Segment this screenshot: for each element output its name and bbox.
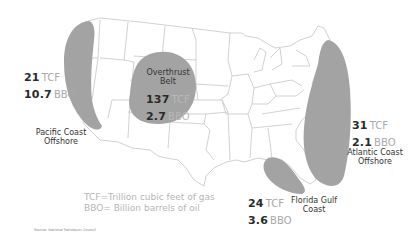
overthrust-gas-value: 137 bbox=[146, 93, 170, 106]
pacific-name-line1: Pacific Coast bbox=[30, 128, 92, 137]
map-legend: TCF=Trillion cubic feet of gas BBO= Bill… bbox=[84, 192, 215, 214]
legend-tcf: TCF=Trillion cubic feet of gas bbox=[84, 192, 215, 203]
us-resource-map: 21TCF 10.7BBO Pacific Coast Offshore Ove… bbox=[0, 0, 418, 236]
atlantic-gas-value: 31 bbox=[352, 119, 368, 132]
gulf-region-shape bbox=[264, 157, 305, 194]
pacific-gas-unit: TCF bbox=[42, 72, 60, 83]
gulf-name-line1: Florida Gulf bbox=[286, 196, 342, 205]
gulf-gas-unit: TCF bbox=[266, 198, 284, 209]
atlantic-name: Atlantic Coast Offshore bbox=[342, 148, 408, 166]
atlantic-oil-value: 2.1 bbox=[352, 136, 372, 149]
pacific-oil-value: 10.7 bbox=[24, 88, 52, 101]
gulf-oil-unit: BBO bbox=[270, 215, 291, 226]
atlantic-values: 31TCF 2.1BBO bbox=[352, 116, 396, 150]
overthrust-name: Overthrust Belt bbox=[138, 68, 198, 86]
overthrust-oil-value: 2.7 bbox=[146, 110, 166, 123]
gulf-name: Florida Gulf Coast bbox=[286, 196, 342, 214]
source-credit: Source: National Petroleum Council bbox=[34, 228, 96, 232]
pacific-gas-value: 21 bbox=[24, 71, 40, 84]
us-border bbox=[80, 18, 330, 186]
overthrust-values: 137TCF 2.7BBO bbox=[146, 90, 190, 124]
pacific-name-line2: Offshore bbox=[30, 137, 92, 146]
overthrust-name-line1: Overthrust bbox=[138, 68, 198, 77]
overthrust-gas-unit: TCF bbox=[172, 94, 190, 105]
gulf-gas-value: 24 bbox=[248, 197, 264, 210]
gulf-values: 24TCF 3.6BBO bbox=[248, 194, 292, 228]
atlantic-name-line2: Offshore bbox=[342, 157, 408, 166]
pacific-name: Pacific Coast Offshore bbox=[30, 128, 92, 146]
gulf-name-line2: Coast bbox=[286, 205, 342, 214]
overthrust-name-line2: Belt bbox=[138, 77, 198, 86]
overthrust-oil-unit: BBO bbox=[168, 111, 189, 122]
pacific-oil-unit: BBO bbox=[54, 89, 75, 100]
atlantic-name-line1: Atlantic Coast bbox=[342, 148, 408, 157]
atlantic-gas-unit: TCF bbox=[370, 120, 388, 131]
gulf-oil-value: 3.6 bbox=[248, 214, 268, 227]
pacific-values: 21TCF 10.7BBO bbox=[24, 68, 75, 102]
legend-bbo: BBO= Billion barrels of oil bbox=[84, 203, 215, 214]
atlantic-oil-unit: BBO bbox=[374, 137, 395, 148]
